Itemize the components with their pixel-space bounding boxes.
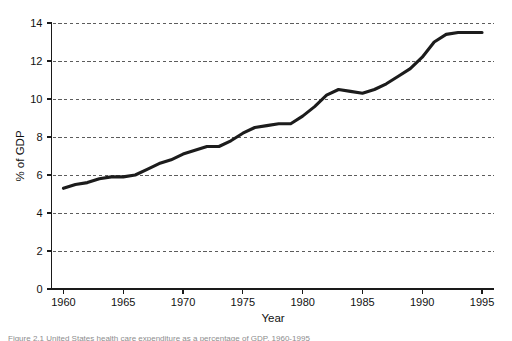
y-tick-label-10: 10 (30, 93, 42, 105)
x-tick-label-1985: 1985 (350, 296, 374, 308)
x-tick-label-1960: 1960 (51, 296, 75, 308)
x-tick-label-1970: 1970 (171, 296, 195, 308)
y-tick-label-2: 2 (36, 245, 42, 257)
x-tick-label-1995: 1995 (470, 296, 494, 308)
y-tick-label-4: 4 (36, 207, 42, 219)
x-tick-label-1980: 1980 (290, 296, 314, 308)
data-series-line (63, 33, 482, 189)
y-tick-label-6: 6 (36, 169, 42, 181)
x-axis-tick-labels: 19601965197019751980198519901995 (51, 296, 494, 308)
x-tick-label-1990: 1990 (410, 296, 434, 308)
health-expenditure-line-chart: 02468101214 1960196519701975198019851990… (0, 0, 512, 341)
y-axis-title: % of GDP (14, 130, 26, 181)
x-tick-label-1975: 1975 (231, 296, 255, 308)
x-tick-label-1965: 1965 (111, 296, 135, 308)
figure-container: 02468101214 1960196519701975198019851990… (0, 0, 512, 341)
y-axis-tick-labels: 02468101214 (30, 17, 42, 295)
y-tick-label-0: 0 (36, 283, 42, 295)
figure-caption: Figure 2.1 United States health care exp… (8, 334, 504, 341)
gridlines (53, 23, 495, 251)
x-axis-title: Year (261, 312, 284, 324)
y-tick-label-14: 14 (30, 17, 42, 29)
y-tick-label-12: 12 (30, 55, 42, 67)
y-tick-label-8: 8 (36, 131, 42, 143)
